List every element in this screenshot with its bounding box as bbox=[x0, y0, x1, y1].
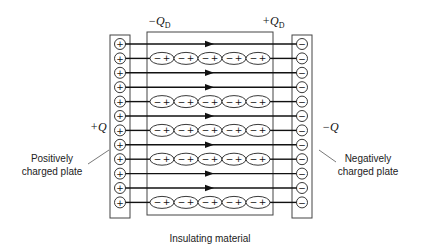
positive-sign: + bbox=[116, 82, 124, 92]
positive-plate-leader bbox=[88, 150, 109, 164]
dipole-positive-end: + bbox=[211, 97, 219, 107]
arrowhead-icon bbox=[205, 70, 214, 76]
negative-sign: − bbox=[298, 154, 306, 164]
arrowhead-icon bbox=[205, 142, 214, 148]
dipole-negative-end: − bbox=[250, 154, 258, 164]
dipole-positive-end: + bbox=[235, 154, 243, 164]
dipole-negative-end: − bbox=[154, 154, 162, 164]
negative-sign: − bbox=[298, 198, 306, 208]
dipole-negative-end: − bbox=[226, 197, 234, 207]
dipole-positive-end: + bbox=[259, 154, 267, 164]
negative-sign: − bbox=[298, 82, 306, 92]
dipole-positive-end: + bbox=[163, 97, 171, 107]
positive-sign: + bbox=[116, 183, 124, 193]
negative-plate-label-line2: charged plate bbox=[338, 166, 399, 177]
dipole-positive-end: + bbox=[259, 97, 267, 107]
dipole-negative-end: − bbox=[154, 53, 162, 63]
dipole-positive-end: + bbox=[163, 197, 171, 207]
capacitor-dielectric-diagram: −QD +QD +Q −Q Positively charged plate N… bbox=[0, 0, 421, 248]
positive-sign: + bbox=[116, 39, 124, 49]
dipole-positive-end: + bbox=[163, 53, 171, 63]
positive-sign: + bbox=[116, 169, 124, 179]
top-charge-labels: −QD +QD bbox=[148, 14, 285, 30]
dipole-positive-end: + bbox=[187, 154, 195, 164]
positive-sign: + bbox=[116, 140, 124, 150]
dipole-negative-end: − bbox=[250, 197, 258, 207]
positive-sign: + bbox=[116, 97, 124, 107]
positive-plate-label-line1: Positively bbox=[31, 153, 73, 164]
negative-sign: − bbox=[298, 68, 306, 78]
dipole-negative-end: − bbox=[154, 125, 162, 135]
row-dipole: +−−+−+−+−+−+ bbox=[115, 96, 308, 108]
dipole-positive-end: + bbox=[211, 197, 219, 207]
row-arrow: +− bbox=[115, 82, 308, 93]
row-dipole: +−−+−+−+−+−+ bbox=[115, 52, 308, 64]
dipole-negative-end: − bbox=[154, 197, 162, 207]
negative-plate-label: Negatively charged plate bbox=[319, 150, 399, 177]
field-rows: +−+−−+−+−+−+−++−+−+−−+−+−+−+−++−+−−+−+−+… bbox=[115, 39, 308, 209]
negative-plate-leader bbox=[319, 150, 336, 162]
negative-sign: − bbox=[298, 183, 306, 193]
dipole-negative-end: − bbox=[250, 97, 258, 107]
dipole-positive-end: + bbox=[211, 154, 219, 164]
row-dipole: +−−+−+−+−+−+ bbox=[115, 196, 308, 208]
arrowhead-icon bbox=[205, 170, 214, 176]
dipole-negative-end: − bbox=[250, 125, 258, 135]
dipole-negative-end: − bbox=[250, 53, 258, 63]
row-dipole: +−−+−+−+−+−+ bbox=[115, 153, 308, 165]
dipole-positive-end: + bbox=[259, 197, 267, 207]
positive-sign: + bbox=[116, 126, 124, 136]
dipole-negative-end: − bbox=[178, 125, 186, 135]
negative-sign: − bbox=[298, 54, 306, 64]
dipole-negative-end: − bbox=[226, 125, 234, 135]
dipole-positive-end: + bbox=[163, 125, 171, 135]
row-dipole: +−−+−+−+−+−+ bbox=[115, 124, 308, 136]
negative-sign: − bbox=[298, 126, 306, 136]
arrowhead-icon bbox=[205, 41, 214, 47]
dipole-negative-end: − bbox=[178, 197, 186, 207]
negative-plate-label-line1: Negatively bbox=[345, 153, 392, 164]
positive-plate-label: Positively charged plate bbox=[22, 150, 109, 177]
minus-q-label: −Q bbox=[322, 120, 339, 134]
dipole-negative-end: − bbox=[226, 154, 234, 164]
negative-sign: − bbox=[298, 169, 306, 179]
plus-qd-label: +QD bbox=[262, 14, 285, 30]
dipole-negative-end: − bbox=[202, 154, 210, 164]
dipole-positive-end: + bbox=[187, 125, 195, 135]
arrowhead-icon bbox=[205, 113, 214, 119]
negative-sign: − bbox=[298, 140, 306, 150]
row-arrow: +− bbox=[115, 139, 308, 150]
insulating-material-label: Insulating material bbox=[169, 233, 250, 244]
dipole-negative-end: − bbox=[226, 53, 234, 63]
dipole-positive-end: + bbox=[187, 53, 195, 63]
dipole-positive-end: + bbox=[235, 197, 243, 207]
dipole-negative-end: − bbox=[178, 154, 186, 164]
negative-sign: − bbox=[298, 39, 306, 49]
dipole-positive-end: + bbox=[235, 125, 243, 135]
row-arrow: +− bbox=[115, 168, 308, 179]
dipole-negative-end: − bbox=[202, 53, 210, 63]
dipole-negative-end: − bbox=[154, 97, 162, 107]
dipole-positive-end: + bbox=[163, 154, 171, 164]
positive-sign: + bbox=[116, 54, 124, 64]
dipole-positive-end: + bbox=[211, 53, 219, 63]
negative-sign: − bbox=[298, 111, 306, 121]
plus-q-label: +Q bbox=[90, 120, 107, 134]
dipole-positive-end: + bbox=[211, 125, 219, 135]
row-arrow: +− bbox=[115, 39, 308, 50]
dipole-positive-end: + bbox=[259, 125, 267, 135]
dipole-negative-end: − bbox=[226, 97, 234, 107]
row-arrow: +− bbox=[115, 111, 308, 122]
positive-sign: + bbox=[116, 154, 124, 164]
negative-sign: − bbox=[298, 97, 306, 107]
positive-sign: + bbox=[116, 198, 124, 208]
row-arrow: +− bbox=[115, 67, 308, 78]
dipole-positive-end: + bbox=[259, 53, 267, 63]
positive-plate-label-line2: charged plate bbox=[22, 166, 83, 177]
dipole-negative-end: − bbox=[202, 197, 210, 207]
dipole-negative-end: − bbox=[178, 97, 186, 107]
arrowhead-icon bbox=[205, 185, 214, 191]
arrowhead-icon bbox=[205, 84, 214, 90]
positive-sign: + bbox=[116, 68, 124, 78]
dipole-negative-end: − bbox=[202, 97, 210, 107]
